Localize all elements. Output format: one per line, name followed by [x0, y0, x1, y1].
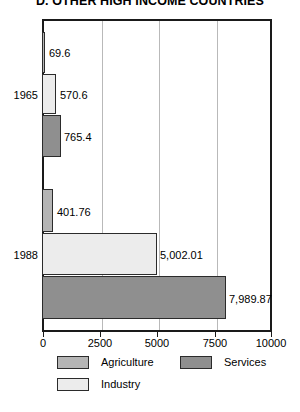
group-label-1988: 1988	[0, 250, 38, 261]
bar-value-1988-services: 7,989.87	[229, 294, 272, 305]
axis-tick-label-2500: 2500	[70, 338, 130, 349]
legend-swatch-agriculture	[57, 356, 89, 369]
bar-1965-agriculture[interactable]	[42, 32, 45, 73]
axis-tick-label-10000: 10000	[241, 338, 300, 349]
legend-swatch-services	[180, 356, 212, 369]
legend-item-agriculture[interactable]: Agriculture	[57, 356, 154, 369]
bar-value-1988-industry: 5,002.01	[160, 250, 203, 261]
group-label-1965: 1965	[0, 90, 38, 101]
legend-label-services: Services	[224, 357, 266, 368]
axis-tick-label-0: 0	[13, 338, 73, 349]
bar-value-1988-agriculture: 401.76	[57, 207, 91, 218]
legend-label-industry: Industry	[101, 379, 140, 390]
bar-1988-services[interactable]	[42, 276, 226, 319]
legend-label-agriculture: Agriculture	[101, 357, 154, 368]
bar-1988-industry[interactable]	[42, 233, 157, 275]
axis-tick-label-7500: 7500	[185, 338, 245, 349]
bar-1988-agriculture[interactable]	[42, 189, 53, 232]
bar-value-1965-industry: 570.6	[60, 90, 88, 101]
chart-legend: Agriculture Industry Services	[57, 356, 287, 406]
chart-title: D. OTHER HIGH INCOME COUNTRIES	[0, 0, 300, 8]
bar-value-1965-agriculture: 69.6	[49, 48, 70, 59]
legend-swatch-industry	[57, 378, 89, 391]
axis-tick-label-5000: 5000	[127, 338, 187, 349]
bar-1965-industry[interactable]	[42, 74, 56, 114]
legend-item-industry[interactable]: Industry	[57, 378, 140, 391]
bar-1965-services[interactable]	[42, 115, 61, 157]
bar-value-1965-services: 765.4	[64, 132, 92, 143]
legend-item-services[interactable]: Services	[180, 356, 266, 369]
